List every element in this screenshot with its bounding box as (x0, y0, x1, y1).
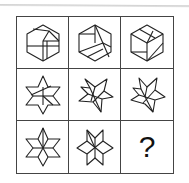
dissection-line (141, 89, 153, 112)
dissection-line (43, 96, 53, 105)
puzzle-cell-r2c3 (121, 69, 173, 121)
puzzle-cell-r2c1 (17, 69, 69, 121)
puzzle-cell-r1c1 (17, 17, 69, 69)
dissection-line (87, 49, 103, 57)
puzzle-cell-r3c2 (69, 121, 121, 173)
six-point-star-figure-icon (73, 125, 117, 169)
star-outline (79, 79, 113, 112)
six-point-star-figure-icon (21, 73, 65, 117)
six-point-star-figure-icon (125, 73, 169, 117)
dissection-line (139, 29, 155, 38)
puzzle-grid: ? (16, 16, 174, 174)
dissection-line (49, 31, 59, 41)
question-mark-icon: ? (139, 132, 156, 162)
dissection-line (145, 87, 147, 97)
six-point-star-figure-icon (73, 73, 117, 117)
hexagon-figure-icon (125, 21, 169, 65)
dissection-line (87, 130, 95, 148)
hexagon-figure-icon (21, 21, 65, 65)
puzzle-cell-r1c3 (121, 17, 173, 69)
top-divider (0, 4, 189, 7)
six-point-star-figure-icon (21, 125, 65, 169)
star-outline (131, 78, 165, 112)
puzzle-cell-r3c1 (17, 121, 69, 173)
puzzle-cell-r1c2 (69, 17, 121, 69)
puzzle-cell-r3c3-missing[interactable]: ? (121, 121, 173, 173)
dissection-line (147, 43, 163, 61)
dissection-line (131, 34, 163, 43)
hexagon-figure-icon (73, 21, 117, 65)
puzzle-cell-r2c2 (69, 69, 121, 121)
dissection-line (38, 148, 48, 157)
